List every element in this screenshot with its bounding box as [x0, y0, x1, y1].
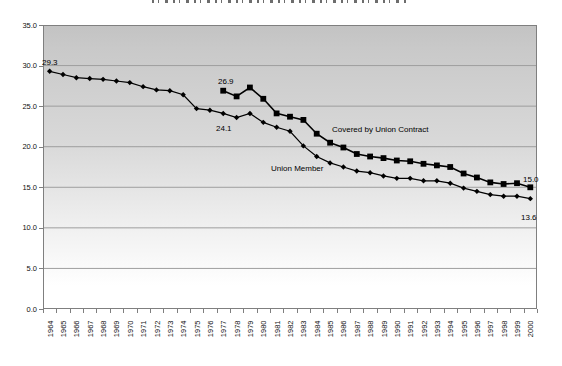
y-axis-label: 25.0 — [7, 102, 37, 111]
x-tick — [257, 309, 258, 313]
x-tick — [323, 309, 324, 313]
chart-canvas: 35.030.025.020.015.010.05.00.0 196419651… — [0, 0, 562, 366]
x-axis-label: 1975 — [191, 321, 202, 351]
x-axis-label: 1976 — [204, 321, 215, 351]
y-tick — [39, 268, 43, 269]
covered-marker — [474, 175, 480, 181]
annotation-1977-member-value: 24.1 — [216, 124, 232, 133]
x-tick — [377, 309, 378, 313]
covered-marker — [274, 111, 280, 117]
x-axis-label: 1993 — [431, 321, 442, 351]
x-axis-label: 1972 — [151, 321, 162, 351]
covered-marker — [314, 131, 320, 137]
union-member-marker — [488, 192, 493, 197]
x-axis-label: 1982 — [285, 321, 296, 351]
union-member-marker — [47, 69, 52, 74]
covered-marker — [514, 180, 520, 186]
x-tick — [484, 309, 485, 313]
union-member-marker — [127, 80, 132, 85]
x-tick — [83, 309, 84, 313]
covered-marker — [421, 161, 427, 167]
union-member-marker — [74, 75, 79, 80]
covered-marker — [220, 88, 226, 94]
covered-marker — [527, 184, 533, 190]
union-member-marker — [114, 78, 119, 83]
clipped-title-text — [152, 0, 410, 3]
y-axis-label: 15.0 — [7, 183, 37, 192]
x-tick — [177, 309, 178, 313]
union-member-marker — [234, 115, 239, 120]
x-axis-label: 1970 — [124, 321, 135, 351]
x-axis-label: 1986 — [338, 321, 349, 351]
x-axis-label: 1979 — [244, 321, 255, 351]
x-axis-label: 1997 — [485, 321, 496, 351]
x-tick — [217, 309, 218, 313]
x-axis-label: 1977 — [218, 321, 229, 351]
covered-marker — [434, 163, 440, 169]
covered-marker — [354, 151, 360, 157]
x-tick — [110, 309, 111, 313]
y-axis-label: 20.0 — [7, 142, 37, 151]
x-tick — [270, 309, 271, 313]
union-member-marker — [274, 125, 279, 130]
covered-marker — [407, 158, 413, 164]
y-axis-label: 10.0 — [7, 223, 37, 232]
covered-marker — [287, 114, 293, 120]
x-axis-label: 1980 — [258, 321, 269, 351]
covered-marker — [381, 155, 387, 161]
series-label-union-member: Union Member — [271, 164, 323, 173]
x-axis-label: 1983 — [298, 321, 309, 351]
covered-marker — [367, 154, 373, 160]
y-tick — [39, 228, 43, 229]
union-member-marker — [434, 178, 439, 183]
x-axis-label: 1966 — [71, 321, 82, 351]
x-tick — [230, 309, 231, 313]
annotation-end-member-value: 13.6 — [521, 213, 537, 222]
x-axis-label: 1973 — [164, 321, 175, 351]
union-member-marker — [407, 176, 412, 181]
x-tick — [203, 309, 204, 313]
y-tick — [39, 187, 43, 188]
union-member-marker — [461, 185, 466, 190]
x-tick — [43, 309, 44, 313]
x-tick — [510, 309, 511, 313]
x-axis-label: 1984 — [311, 321, 322, 351]
union-member-marker — [140, 84, 145, 89]
x-axis-label: 1995 — [458, 321, 469, 351]
union-member-marker — [341, 164, 346, 169]
covered-marker — [234, 94, 240, 100]
union-member-marker — [207, 108, 212, 113]
x-tick — [123, 309, 124, 313]
union-member-marker — [100, 77, 105, 82]
covered-marker — [447, 164, 453, 170]
union-member-marker — [221, 111, 226, 116]
x-tick — [390, 309, 391, 313]
y-tick — [39, 25, 43, 26]
x-tick — [163, 309, 164, 313]
union-member-marker — [60, 72, 65, 77]
covered-marker — [501, 181, 507, 187]
covered-marker — [301, 117, 307, 123]
x-axis-label: 1996 — [471, 321, 482, 351]
union-member-marker — [381, 173, 386, 178]
annotation-1977-coverage-value: 26.9 — [218, 77, 234, 86]
x-tick — [283, 309, 284, 313]
covered-marker — [247, 85, 253, 91]
x-axis-label: 1978 — [231, 321, 242, 351]
x-axis-label: 1990 — [391, 321, 402, 351]
union-member-marker — [514, 194, 519, 199]
x-axis-label: 1964 — [44, 321, 55, 351]
x-tick — [297, 309, 298, 313]
x-axis-label: 1988 — [365, 321, 376, 351]
x-axis-label: 1967 — [84, 321, 95, 351]
x-tick — [497, 309, 498, 313]
covered-marker — [394, 158, 400, 164]
x-axis-label: 1971 — [138, 321, 149, 351]
union-member-marker — [167, 88, 172, 93]
union-member-marker — [448, 181, 453, 186]
x-axis-label: 1999 — [512, 321, 523, 351]
x-tick — [430, 309, 431, 313]
x-tick — [350, 309, 351, 313]
annotation-end-coverage-value: 15.0 — [523, 175, 539, 184]
x-axis-label: 1991 — [405, 321, 416, 351]
